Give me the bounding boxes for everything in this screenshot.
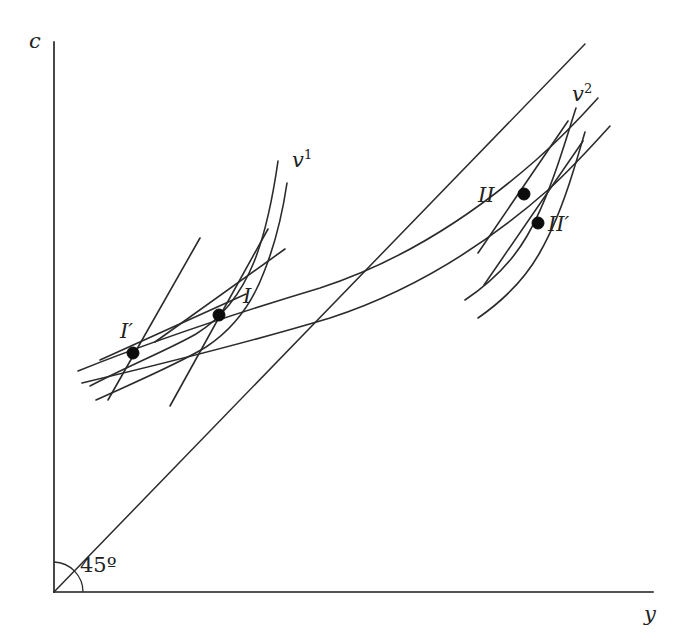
consumption-curve-upper xyxy=(78,98,598,371)
point-I-prime xyxy=(127,347,139,359)
axes-group xyxy=(54,42,653,592)
tangent-lines-group xyxy=(100,121,583,406)
point-II-prime-label: II′ xyxy=(547,212,570,236)
ray-45-line xyxy=(54,44,585,592)
indifference-curves-v1-group xyxy=(90,161,287,400)
point-I-label: I xyxy=(242,284,252,308)
point-I xyxy=(213,309,225,321)
v1-label: v1 xyxy=(292,147,312,172)
tangency-points-group xyxy=(127,188,544,359)
v1-label-base: v xyxy=(292,148,304,172)
point-II-prime xyxy=(532,217,544,229)
y-axis-label: y xyxy=(643,602,657,626)
point-I-prime-label: I′ xyxy=(119,319,133,343)
v2-label-superscript: 2 xyxy=(584,81,592,96)
v2-label-base: v xyxy=(572,82,584,106)
v2-label: v2 xyxy=(572,81,592,106)
point-II xyxy=(518,188,530,200)
c-axis-label: c xyxy=(29,29,41,53)
point-II-label: II xyxy=(477,183,495,207)
v1-label-superscript: 1 xyxy=(304,147,312,162)
angle-45-label: 45º xyxy=(80,553,117,577)
tangent-line-at-I xyxy=(155,249,285,342)
labels-group: c y 45º v1 v2 I I′ II II′ xyxy=(29,29,657,626)
ray-45-group xyxy=(54,44,585,592)
economics-diagram: c y 45º v1 v2 I I′ II II′ xyxy=(0,0,686,643)
